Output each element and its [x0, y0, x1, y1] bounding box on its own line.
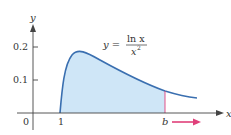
equation-numerator: ln x — [127, 33, 145, 44]
tick-label-01: 0.1 — [13, 74, 28, 85]
x-tick-label-1: 1 — [58, 116, 64, 127]
equation-exponent: 2 — [137, 44, 141, 51]
shaded-area — [60, 51, 165, 113]
x-axis-label: x — [226, 108, 231, 119]
origin-label: 0 — [23, 116, 29, 127]
arrowhead-icon — [193, 119, 201, 126]
chart-canvas: y x 0.2 0.1 0 1 b y = ln x x 2 — [0, 0, 231, 135]
y-axis-arrow-icon — [30, 24, 36, 32]
x-axis-arrow-icon — [216, 110, 224, 116]
equation-lhs: y = — [102, 39, 120, 50]
tick-label-02: 0.2 — [13, 41, 28, 52]
y-axis-label: y — [29, 12, 36, 23]
b-label: b — [162, 116, 168, 127]
